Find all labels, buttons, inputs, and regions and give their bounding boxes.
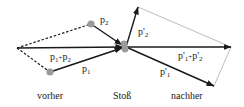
label-p2prime: p'2: [138, 27, 148, 39]
label-p1prime: p'1: [160, 67, 170, 79]
particle-1-dot: [46, 68, 53, 75]
label-p1prime-plus-p2prime: p'1+p'2: [178, 51, 203, 63]
thin-line-upper: [138, 7, 231, 47]
label-p1-plus-p2: p1+p2: [50, 52, 71, 64]
label-p2: p2: [100, 15, 109, 27]
vector-p2prime: [126, 7, 138, 47]
particle-2-dot: [87, 20, 94, 27]
momentum-collision-diagram: p2 p1+p2 p1 p'2 p'1+p'2 p'1 vorher Stoß …: [0, 0, 244, 107]
dashed-line-to-p1: [17, 48, 50, 72]
vector-p1-plus-p2: [17, 47, 123, 48]
thin-line-lower: [214, 47, 231, 86]
caption-after: nachher: [171, 91, 203, 101]
collision-particle-b: [122, 46, 129, 53]
dashed-line-to-p2: [17, 24, 91, 48]
caption-collision: Stoß: [113, 91, 131, 101]
vector-p2: [91, 24, 122, 45]
caption-before: vorher: [37, 91, 63, 101]
label-p1: p1: [82, 64, 91, 76]
